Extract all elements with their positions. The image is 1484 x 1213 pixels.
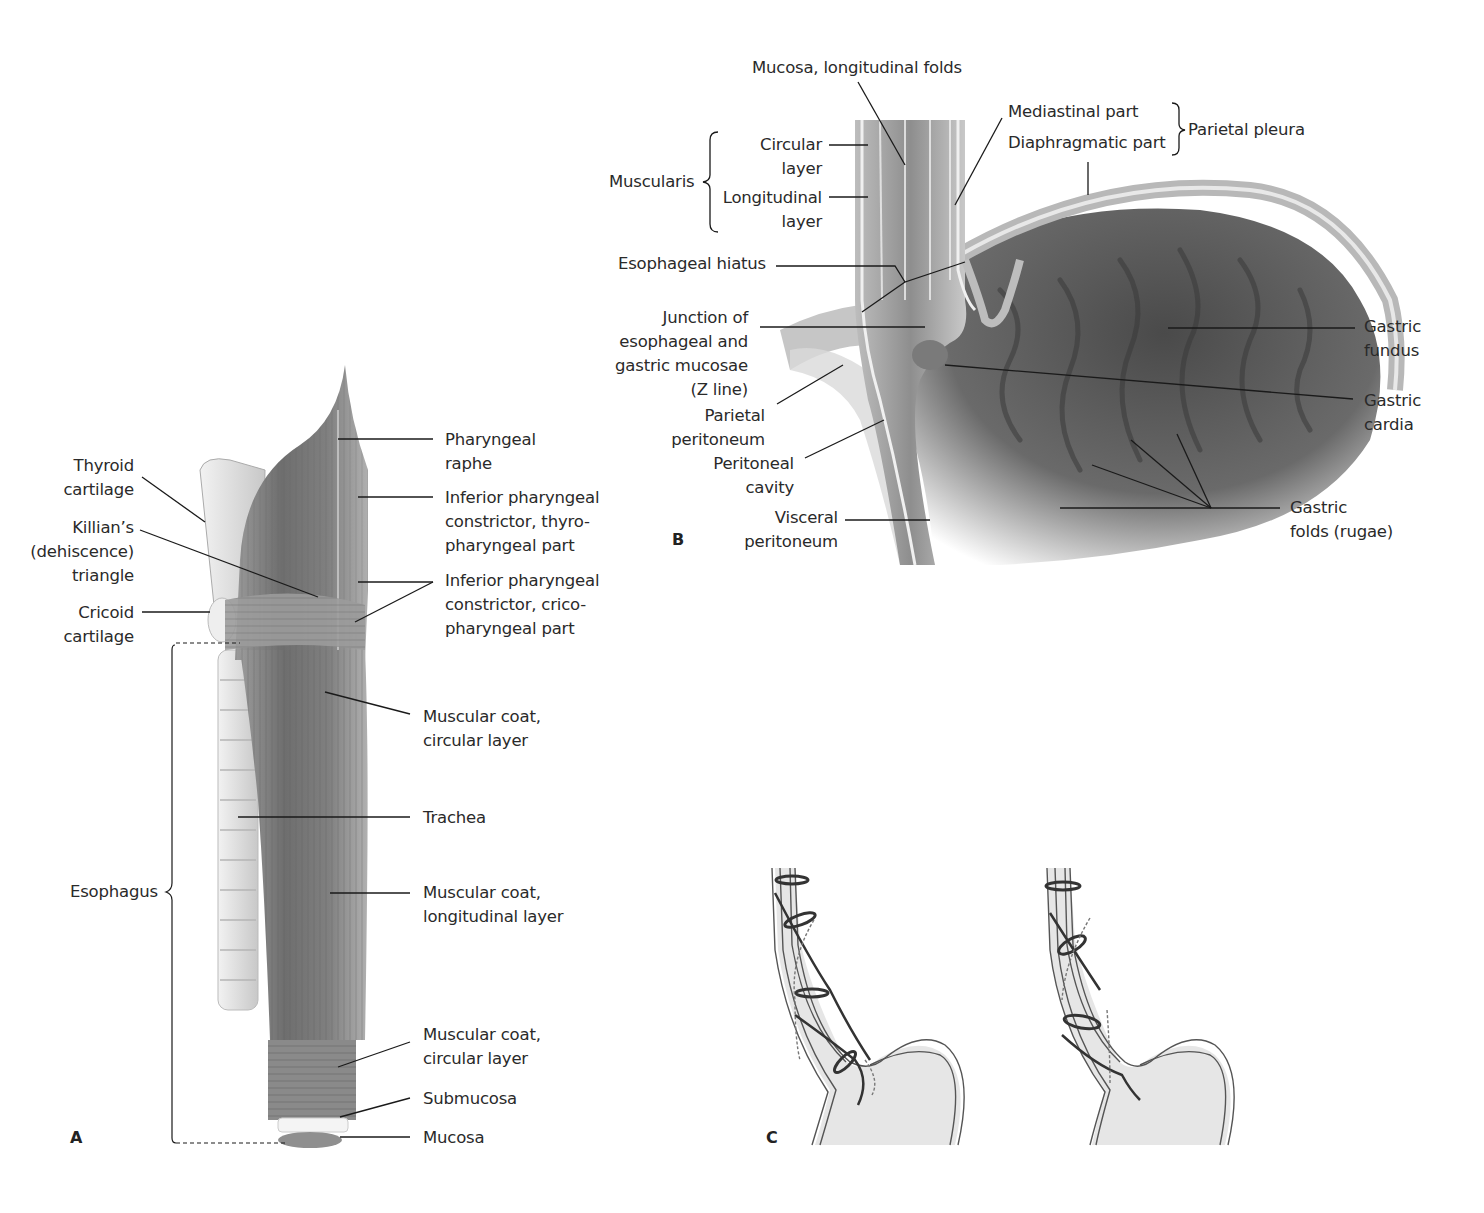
label-parietal-peritoneum: Parietal peritoneum xyxy=(671,404,765,452)
label-mucosa: Mucosa xyxy=(423,1126,484,1150)
panel-a-illustration xyxy=(200,365,368,1148)
label-gastric-folds: Gastric folds (rugae) xyxy=(1290,496,1393,544)
label-diaphragmatic-part: Diaphragmatic part xyxy=(1008,131,1166,155)
label-peritoneal-cavity: Peritoneal cavity xyxy=(713,452,794,500)
label-muscular-coat-longitudinal: Muscular coat, longitudinal layer xyxy=(423,881,563,929)
panel-label-a: A xyxy=(70,1128,82,1147)
label-z-line: Junction of esophageal and gastric mucos… xyxy=(615,306,748,402)
label-trachea: Trachea xyxy=(423,806,486,830)
panel-c-right-schematic xyxy=(1046,868,1234,1145)
label-gastric-fundus: Gastric fundus xyxy=(1364,315,1421,363)
label-muscular-coat-circular-upper: Muscular coat, circular layer xyxy=(423,705,541,753)
label-cricopharyngeal-part: Inferior pharyngeal constrictor, crico- … xyxy=(445,569,599,641)
label-visceral-peritoneum: Visceral peritoneum xyxy=(744,506,838,554)
label-killians-triangle: Killian’s (dehiscence) triangle xyxy=(30,516,134,588)
label-cricoid-cartilage: Cricoid cartilage xyxy=(63,601,134,649)
label-muscular-coat-circular-lower: Muscular coat, circular layer xyxy=(423,1023,541,1071)
panel-label-c: C xyxy=(766,1128,778,1147)
label-muscularis: Muscularis xyxy=(609,170,694,194)
label-parietal-pleura: Parietal pleura xyxy=(1188,118,1305,142)
label-pharyngeal-raphe: Pharyngeal raphe xyxy=(445,428,536,476)
label-thyroid-cartilage: Thyroid cartilage xyxy=(63,454,134,502)
label-mucosa-longitudinal-folds: Mucosa, longitudinal folds xyxy=(752,56,962,80)
panel-c-left-schematic xyxy=(772,868,964,1145)
label-esophageal-hiatus: Esophageal hiatus xyxy=(618,252,766,276)
label-gastric-cardia: Gastric cardia xyxy=(1364,389,1421,437)
label-esophagus: Esophagus xyxy=(70,880,158,904)
label-longitudinal-layer: Longitudinal layer xyxy=(723,186,822,234)
anatomy-figure xyxy=(0,0,1484,1213)
label-mediastinal-part: Mediastinal part xyxy=(1008,100,1138,124)
label-thyropharyngeal-part: Inferior pharyngeal constrictor, thyro- … xyxy=(445,486,599,558)
label-circular-layer: Circular layer xyxy=(760,133,822,181)
label-submucosa: Submucosa xyxy=(423,1087,517,1111)
panel-label-b: B xyxy=(672,530,684,549)
